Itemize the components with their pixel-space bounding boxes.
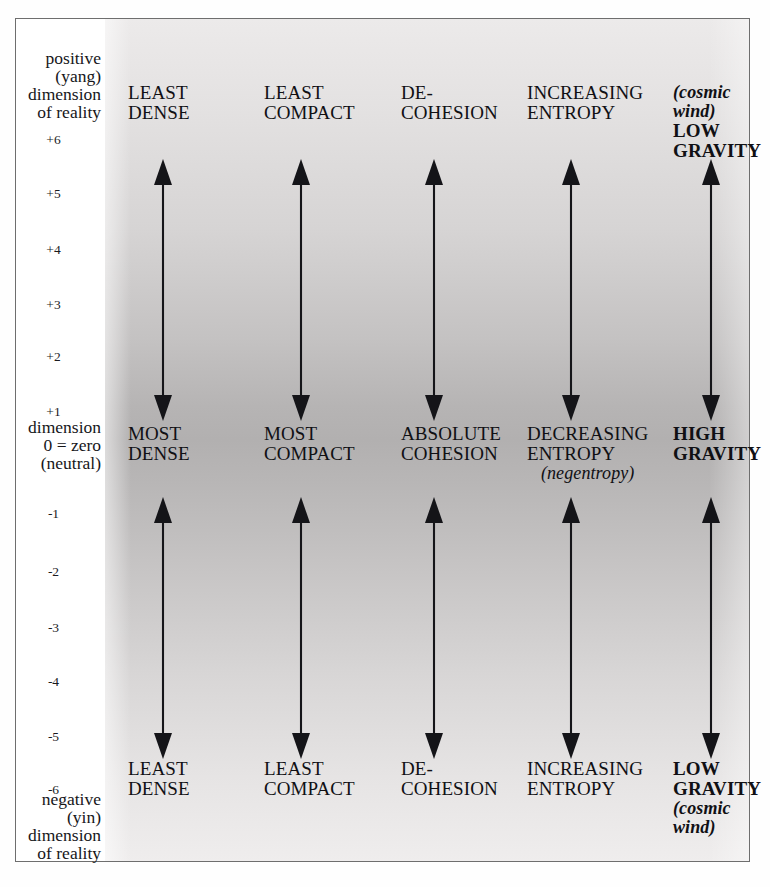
- column-label-compactness-top: LEASTCOMPACT: [264, 83, 355, 123]
- column-label-line: ENTROPY: [527, 444, 648, 464]
- arrow-compactness-upper: [288, 159, 314, 421]
- column-label-entropy-bottom: INCREASINGENTROPY: [527, 759, 643, 799]
- column-note-above: (cosmicwind): [673, 83, 761, 121]
- column-note-below: (negentropy): [527, 464, 648, 483]
- column-label-line: GRAVITY: [673, 141, 761, 161]
- column-note-below: (cosmicwind): [673, 799, 761, 837]
- column-label-entropy-top: INCREASINGENTROPY: [527, 83, 643, 123]
- column-label-cohesion-middle: ABSOLUTECOHESION: [401, 424, 501, 464]
- arrow-entropy-lower: [558, 497, 584, 759]
- axis-bottom-block: negative (yin) dimension of reality: [16, 790, 105, 862]
- column-label-line: ABSOLUTE: [401, 424, 501, 444]
- column-label-cohesion-top: DE-COHESION: [401, 83, 498, 123]
- diagram-frame: positive (yang) dimension of reality dim…: [15, 18, 750, 862]
- column-label-entropy-middle: DECREASINGENTROPY(negentropy): [527, 424, 648, 483]
- column-label-line: HIGH: [673, 424, 761, 444]
- column-label-line: MOST: [264, 424, 355, 444]
- column-label-gravity-middle: HIGHGRAVITY: [673, 424, 761, 464]
- column-label-line: GRAVITY: [673, 444, 761, 464]
- axis-zero-block: dimension 0 = zero (neutral): [16, 418, 105, 472]
- axis-top-block: positive (yang) dimension of reality: [16, 49, 105, 121]
- arrow-density-upper: [150, 159, 176, 421]
- column-label-line: INCREASING: [527, 83, 643, 103]
- column-label-gravity-top: (cosmicwind)LOWGRAVITY: [673, 83, 761, 161]
- column-label-line: COHESION: [401, 103, 498, 123]
- column-label-compactness-middle: MOSTCOMPACT: [264, 424, 355, 464]
- axis-tick-minus4: -4: [16, 674, 105, 690]
- axis-tick-minus1: -1: [16, 506, 105, 522]
- column-label-compactness-bottom: LEASTCOMPACT: [264, 759, 355, 799]
- column-label-line: LEAST: [264, 759, 355, 779]
- column-label-line: INCREASING: [527, 759, 643, 779]
- column-label-line: COHESION: [401, 779, 498, 799]
- column-label-density-middle: MOSTDENSE: [128, 424, 190, 464]
- diagram-canvas: positive (yang) dimension of reality dim…: [0, 0, 770, 887]
- column-label-cohesion-bottom: DE-COHESION: [401, 759, 498, 799]
- axis-top-line-4: of reality: [16, 103, 101, 121]
- axis-tick-plus3: +3: [16, 297, 105, 313]
- column-label-density-bottom: LEASTDENSE: [128, 759, 190, 799]
- axis-top-line-3: dimension: [16, 85, 101, 103]
- column-label-line: ENTROPY: [527, 779, 643, 799]
- arrow-gravity-lower: [698, 497, 724, 759]
- column-label-line: GRAVITY: [673, 779, 761, 799]
- axis-tick-plus4: +4: [16, 242, 105, 258]
- column-label-line: DE-: [401, 759, 498, 779]
- axis-tick-plus2: +2: [16, 349, 105, 365]
- arrow-entropy-upper: [558, 159, 584, 421]
- column-label-line: LEAST: [128, 759, 190, 779]
- axis-tick-plus1: +1: [16, 404, 105, 420]
- column-label-line: DENSE: [128, 444, 190, 464]
- axis-tick-minus5: -5: [16, 729, 105, 745]
- axis-zero-line-2: 0 = zero: [16, 436, 101, 454]
- axis-bottom-line-4: of reality: [16, 844, 101, 862]
- axis-tick-minus6: -6: [16, 782, 105, 798]
- column-label-line: COMPACT: [264, 103, 355, 123]
- column-label-line: LEAST: [128, 83, 190, 103]
- axis-tick-plus6: +6: [16, 132, 105, 148]
- arrow-density-lower: [150, 497, 176, 759]
- column-label-line: DENSE: [128, 779, 190, 799]
- column-label-line: DE-: [401, 83, 498, 103]
- axis-tick-plus5: +5: [16, 186, 105, 202]
- column-label-line: COMPACT: [264, 444, 355, 464]
- axis-zero-line-3: (neutral): [16, 454, 101, 472]
- arrow-cohesion-upper: [421, 159, 447, 421]
- column-label-gravity-bottom: LOWGRAVITY(cosmicwind): [673, 759, 761, 837]
- column-label-line: ENTROPY: [527, 103, 643, 123]
- axis-tick-minus3: -3: [16, 620, 105, 636]
- column-label-line: LOW: [673, 121, 761, 141]
- axis-top-line-2: (yang): [16, 67, 101, 85]
- arrow-compactness-lower: [288, 497, 314, 759]
- column-label-density-top: LEASTDENSE: [128, 83, 190, 123]
- axis-zero-line-1: dimension: [16, 418, 101, 436]
- axis-bottom-line-3: dimension: [16, 826, 101, 844]
- column-label-line: COHESION: [401, 444, 501, 464]
- axis-tick-minus2: -2: [16, 564, 105, 580]
- axis-bottom-line-2: (yin): [16, 808, 101, 826]
- column-label-line: LEAST: [264, 83, 355, 103]
- axis-top-line-1: positive: [16, 49, 101, 67]
- column-label-line: DECREASING: [527, 424, 648, 444]
- column-label-line: COMPACT: [264, 779, 355, 799]
- column-label-line: LOW: [673, 759, 761, 779]
- column-label-line: DENSE: [128, 103, 190, 123]
- arrow-cohesion-lower: [421, 497, 447, 759]
- arrow-gravity-upper: [698, 159, 724, 421]
- column-label-line: MOST: [128, 424, 190, 444]
